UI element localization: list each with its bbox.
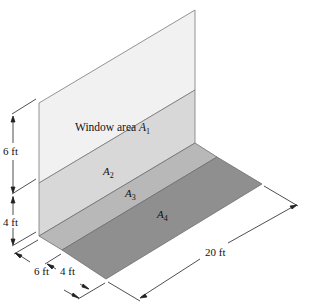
- label-a2: A2: [103, 166, 114, 180]
- dim-6ft-depth: 6 ft: [34, 266, 49, 277]
- room-diagram: [0, 0, 309, 308]
- label-a3: A3: [125, 188, 136, 202]
- label-a4: A4: [157, 209, 168, 223]
- dim-4ft-vertical: 4 ft: [3, 217, 18, 228]
- dim-6ft-vertical: 6 ft: [3, 146, 18, 157]
- label-a1: Window area A1: [75, 122, 150, 136]
- dim-20ft-length: 20 ft: [205, 247, 225, 258]
- dim-4ft-depth: 4 ft: [60, 266, 75, 277]
